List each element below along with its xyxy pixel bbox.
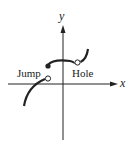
function-graph: y x Jump Hole	[0, 0, 136, 147]
left-branch-curve	[24, 79, 45, 106]
jump-open-point	[45, 76, 50, 81]
middle-branch-curve	[48, 60, 75, 65]
hole-label: Hole	[72, 68, 93, 79]
closed-point	[45, 63, 50, 68]
jump-label: Jump	[17, 68, 41, 79]
right-branch-curve	[81, 49, 89, 62]
x-axis-label: x	[120, 77, 125, 89]
hole-open-point	[75, 60, 80, 65]
y-axis	[61, 25, 66, 140]
y-axis-label: y	[59, 10, 64, 22]
